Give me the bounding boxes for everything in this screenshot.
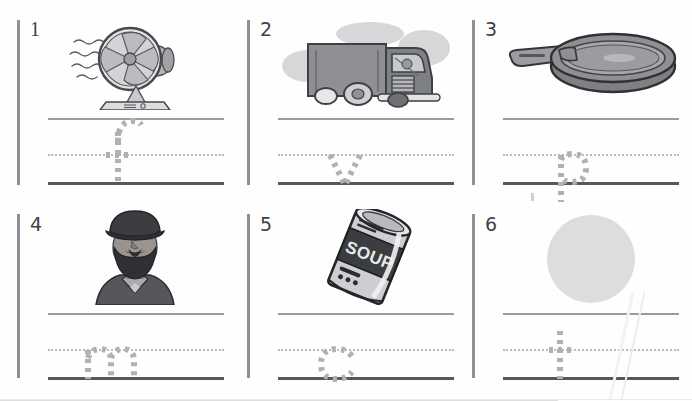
trace-letter-m[interactable] [48, 305, 224, 397]
picture-plain-circle-ball [499, 209, 681, 305]
item-divider-bar [17, 20, 20, 185]
item-number: 2 [260, 20, 272, 39]
picture-delivery-van-truck [274, 14, 456, 110]
item-number: 5 [260, 215, 272, 234]
scan-speck [531, 193, 534, 201]
worksheet-item-6[interactable]: 6 [463, 201, 688, 397]
worksheet-item-4[interactable]: 4 [8, 201, 233, 397]
worksheet-item-5[interactable]: 5 SOUP [238, 201, 463, 397]
trace-letter-t[interactable] [503, 305, 679, 397]
item-number: 4 [30, 215, 42, 234]
item-divider-bar [247, 20, 250, 185]
item-divider-bar [247, 214, 250, 378]
trace-letter-f[interactable] [48, 110, 224, 202]
worksheet-item-2[interactable]: 2 [238, 6, 463, 202]
picture-frying-pan [499, 14, 681, 110]
picture-electric-desk-fan [44, 14, 226, 110]
trace-letter-c[interactable] [278, 305, 454, 397]
item-divider-bar [17, 214, 20, 378]
worksheet-item-1[interactable]: 1 [8, 6, 233, 202]
picture-soup-can: SOUP [274, 209, 456, 305]
item-number: 6 [485, 215, 497, 234]
worksheet-page: 1 [0, 0, 692, 401]
trace-letter-p[interactable] [503, 110, 679, 202]
item-number: 3 [485, 20, 497, 39]
worksheet-grid: 1 [0, 0, 692, 401]
worksheet-item-3[interactable]: 3 [463, 6, 688, 202]
item-number: 1 [30, 20, 40, 39]
picture-bearded-man-with-hat [44, 209, 226, 305]
trace-letter-v[interactable] [278, 110, 454, 202]
item-divider-bar [472, 20, 475, 185]
item-divider-bar [472, 214, 475, 378]
